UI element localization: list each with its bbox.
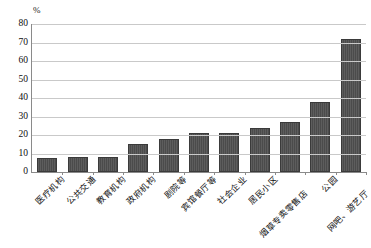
bar[interactable]: [128, 144, 148, 172]
y-axis-tick-label: 50: [19, 75, 29, 85]
y-axis-tick-label: 10: [19, 149, 29, 159]
y-axis-tick-label: 60: [19, 56, 29, 66]
gridline: [32, 117, 366, 118]
x-axis-category-label: 居民小区: [247, 175, 279, 207]
x-axis-category-label: 剧院等: [163, 175, 188, 200]
y-axis-tick-label: 20: [19, 130, 29, 140]
x-axis-labels: 医疗机构公共交通教育机构政府机构剧院等宾馆餐厅等社会企业居民小区烟草专卖零售店公…: [31, 175, 365, 248]
gridline: [32, 135, 366, 136]
y-axis-tick-label: 70: [19, 38, 29, 48]
bar[interactable]: [68, 157, 88, 172]
plot-area: 01020304050607080: [31, 24, 366, 173]
gridline: [32, 61, 366, 62]
y-axis-tick-label: 0: [23, 167, 28, 177]
x-axis-category-label: 网吧、游艺厅: [326, 189, 371, 234]
x-axis-category-label: 烟草专卖零售店: [259, 189, 310, 240]
gridline: [32, 43, 366, 44]
gridline: [32, 24, 366, 25]
y-axis-unit-label: %: [33, 5, 40, 15]
y-axis-tick-label: 30: [19, 112, 29, 122]
bar[interactable]: [310, 102, 330, 172]
x-axis-category-label: 医疗机构: [35, 175, 67, 207]
gridline: [32, 98, 366, 99]
y-axis-tick-label: 80: [19, 19, 29, 29]
gridline: [32, 154, 366, 155]
bar[interactable]: [341, 39, 361, 172]
bar[interactable]: [37, 158, 57, 172]
x-axis-category-label: 政府机构: [126, 175, 158, 207]
x-axis-category-label: 公共交通: [65, 175, 97, 207]
bar[interactable]: [159, 139, 179, 172]
x-axis-tick: [366, 172, 367, 175]
bar[interactable]: [280, 122, 300, 172]
x-axis-category-label: 教育机构: [95, 175, 127, 207]
bar-chart: % 01020304050607080 医疗机构公共交通教育机构政府机构剧院等宾…: [0, 0, 371, 248]
bar[interactable]: [98, 157, 118, 172]
x-axis-category-label: 公园: [321, 175, 340, 194]
y-axis-tick-label: 40: [19, 93, 29, 103]
x-axis-category-label: 社会企业: [217, 175, 249, 207]
gridline: [32, 80, 366, 81]
